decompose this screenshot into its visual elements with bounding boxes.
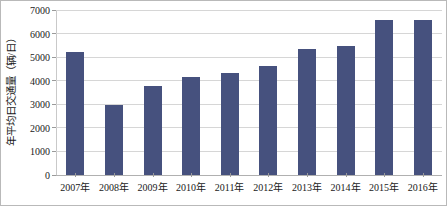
bar xyxy=(182,77,200,175)
bar xyxy=(144,86,162,175)
x-tick-mark xyxy=(423,173,424,177)
x-tick-label: 2009年 xyxy=(138,179,168,194)
x-tick-label: 2008年 xyxy=(99,179,129,194)
bar xyxy=(221,73,239,175)
bars-layer xyxy=(56,10,442,175)
y-axis-tick-labels: 01000200030004000500060007000 xyxy=(17,10,53,175)
x-tick-label: 2015年 xyxy=(369,179,399,194)
x-tick-mark xyxy=(114,173,115,177)
y-tick-label: 2000 xyxy=(30,122,50,133)
y-tick-label: 3000 xyxy=(30,99,50,110)
x-tick-label: 2010年 xyxy=(176,179,206,194)
y-tick-label: 7000 xyxy=(30,5,50,16)
x-tick-mark xyxy=(307,173,308,177)
x-tick-mark xyxy=(346,173,347,177)
y-tick-label: 0 xyxy=(45,170,50,181)
x-tick-mark xyxy=(153,173,154,177)
bar xyxy=(375,20,393,175)
x-tick-label: 2007年 xyxy=(60,179,90,194)
bar xyxy=(337,46,355,175)
x-tick-mark xyxy=(230,173,231,177)
x-tick-label: 2011年 xyxy=(215,179,245,194)
x-tick-label: 2012年 xyxy=(253,179,283,194)
bar xyxy=(105,105,123,175)
x-tick-label: 2016年 xyxy=(408,179,438,194)
x-tick-mark xyxy=(268,173,269,177)
bar xyxy=(414,20,432,175)
bar xyxy=(66,52,84,175)
x-tick-label: 2013年 xyxy=(292,179,322,194)
plot-area xyxy=(56,10,442,175)
y-tick-label: 6000 xyxy=(30,28,50,39)
bar xyxy=(259,66,277,175)
x-tick-mark xyxy=(191,173,192,177)
bar-chart-figure: 年平均日交通量（辆/日） 010002000300040005000600070… xyxy=(0,0,447,206)
x-tick-label: 2014年 xyxy=(331,179,361,194)
x-tick-mark xyxy=(384,173,385,177)
x-tick-mark xyxy=(75,173,76,177)
y-tick-label: 1000 xyxy=(30,146,50,157)
x-axis-tick-labels: 2007年2008年2009年2010年2011年2012年2013年2014年… xyxy=(56,177,442,199)
y-tick-label: 5000 xyxy=(30,52,50,63)
bar xyxy=(298,49,316,175)
y-tick-label: 4000 xyxy=(30,75,50,86)
y-axis-title-text: 年平均日交通量（辆/日） xyxy=(3,33,18,146)
